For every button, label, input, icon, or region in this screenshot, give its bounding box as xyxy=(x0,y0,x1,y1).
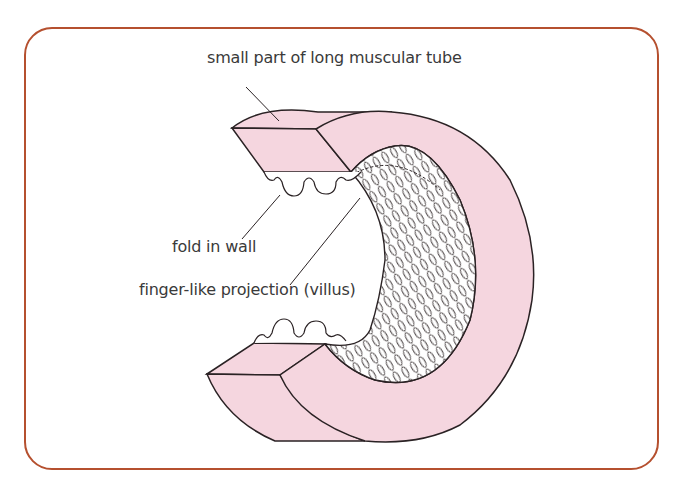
wall-folds xyxy=(254,172,361,343)
leader-fold xyxy=(242,195,280,239)
label-fold-in-wall: fold in wall xyxy=(172,237,256,256)
label-muscular-tube: small part of long muscular tube xyxy=(207,48,462,67)
leader-villus xyxy=(290,198,360,285)
intestine-cross-section xyxy=(0,0,685,493)
label-villus: finger-like projection (villus) xyxy=(139,280,356,299)
